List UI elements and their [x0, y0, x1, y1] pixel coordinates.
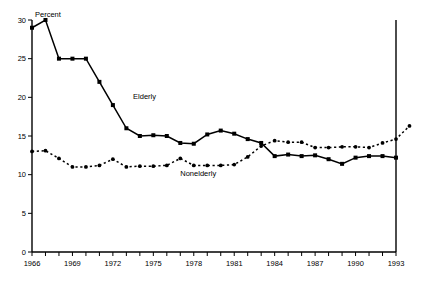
- series-label-elderly: Elderly: [133, 92, 156, 101]
- data-point-nonelderly: [57, 157, 61, 161]
- data-point-nonelderly: [44, 149, 48, 153]
- data-point-elderly: [205, 132, 209, 136]
- data-point-elderly: [84, 57, 88, 61]
- data-point-nonelderly: [219, 163, 223, 167]
- y-tick-label: 5: [22, 209, 26, 218]
- y-tick-label: 30: [18, 16, 26, 25]
- series-line-elderly: [32, 20, 396, 164]
- data-point-nonelderly: [192, 163, 196, 167]
- data-point-elderly: [124, 126, 128, 130]
- data-point-elderly: [354, 156, 358, 160]
- data-point-nonelderly: [381, 141, 385, 145]
- data-point-nonelderly: [151, 164, 155, 168]
- data-point-elderly: [70, 57, 74, 61]
- x-tick-label: 1972: [105, 259, 122, 268]
- data-point-elderly: [367, 154, 371, 158]
- x-tick-label: 1993: [388, 259, 405, 268]
- data-point-elderly: [219, 129, 223, 133]
- data-point-elderly: [327, 157, 331, 161]
- data-point-elderly: [313, 153, 317, 157]
- data-point-nonelderly: [286, 140, 290, 144]
- series-lines: [32, 20, 409, 167]
- data-point-nonelderly: [313, 146, 317, 150]
- data-point-nonelderly: [98, 163, 102, 167]
- data-point-nonelderly: [246, 155, 250, 159]
- data-point-elderly: [232, 132, 236, 136]
- data-point-nonelderly: [178, 157, 182, 161]
- data-point-elderly: [97, 80, 101, 84]
- y-tick-label: 10: [18, 170, 26, 179]
- data-point-nonelderly: [30, 150, 34, 154]
- data-point-nonelderly: [71, 165, 75, 169]
- x-tick-label: 1984: [266, 259, 283, 268]
- data-point-elderly: [165, 134, 169, 138]
- data-point-elderly: [138, 134, 142, 138]
- data-point-nonelderly: [408, 124, 412, 128]
- data-point-nonelderly: [111, 157, 115, 161]
- data-point-nonelderly: [138, 164, 142, 168]
- x-tick-label: 1981: [226, 259, 243, 268]
- x-tick-label: 1990: [347, 259, 364, 268]
- data-point-nonelderly: [273, 139, 277, 143]
- data-point-nonelderly: [354, 145, 358, 149]
- data-point-elderly: [178, 141, 182, 145]
- data-point-nonelderly: [84, 165, 88, 169]
- data-point-nonelderly: [124, 165, 128, 169]
- data-point-nonelderly: [165, 163, 169, 167]
- data-point-elderly: [151, 133, 155, 137]
- data-point-nonelderly: [205, 163, 209, 167]
- series-markers: [30, 18, 411, 169]
- data-point-nonelderly: [327, 146, 331, 150]
- data-point-elderly: [300, 154, 304, 158]
- x-tick-label: 1969: [64, 259, 81, 268]
- data-point-elderly: [57, 57, 61, 61]
- data-point-nonelderly: [367, 146, 371, 150]
- x-axis-tick-labels: 1966196919721975197819811984198719901993: [24, 259, 405, 268]
- data-point-elderly: [30, 26, 34, 30]
- y-tick-label: 20: [18, 93, 26, 102]
- x-axis: 1966196919721975197819811984198719901993: [24, 20, 405, 268]
- data-point-elderly: [111, 103, 115, 107]
- x-tick-label: 1978: [185, 259, 202, 268]
- poverty-rate-line-chart: 051015202530 196619691972197519781981198…: [0, 0, 436, 286]
- y-axis-tick-labels: 051015202530: [18, 16, 26, 257]
- data-point-nonelderly: [300, 140, 304, 144]
- data-point-elderly: [286, 153, 290, 157]
- data-point-elderly: [192, 142, 196, 146]
- y-axis: 051015202530: [18, 16, 32, 257]
- data-point-elderly: [273, 154, 277, 158]
- data-point-elderly: [394, 156, 398, 160]
- data-point-elderly: [43, 18, 47, 22]
- y-tick-label: 0: [22, 248, 26, 257]
- x-tick-label: 1966: [24, 259, 41, 268]
- y-axis-title: Percent: [35, 10, 62, 19]
- x-tick-label: 1975: [145, 259, 162, 268]
- data-point-nonelderly: [259, 144, 263, 148]
- data-point-elderly: [246, 137, 250, 141]
- data-point-nonelderly: [232, 163, 236, 167]
- x-tick-label: 1987: [307, 259, 324, 268]
- y-tick-label: 15: [18, 132, 26, 141]
- chart-canvas: 051015202530 196619691972197519781981198…: [0, 0, 436, 286]
- data-point-nonelderly: [394, 137, 398, 141]
- data-point-elderly: [340, 162, 344, 166]
- y-tick-label: 25: [18, 54, 26, 63]
- series-label-nonelderly: Nonelderly: [180, 169, 216, 178]
- data-point-nonelderly: [340, 145, 344, 149]
- data-point-elderly: [381, 154, 385, 158]
